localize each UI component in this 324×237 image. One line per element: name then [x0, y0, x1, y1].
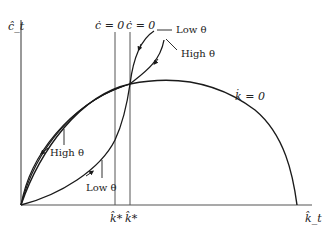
y-axis-label: ĉ_t [8, 20, 25, 33]
x-axis-label: k̂_t [305, 211, 322, 225]
k-star-right-label: k̂* [125, 211, 138, 225]
saddle-path-high-theta-upper [130, 40, 164, 84]
high-theta-bottom-label: High θ [50, 147, 84, 158]
phase-diagram: ĉ_t k̂_t ċ = 0 ċ = 0 k̇ = 0 k̂* k̂* Low … [0, 0, 324, 237]
low-theta-bottom-label: Low θ [86, 182, 116, 193]
k-star-left-label: k̂* [110, 211, 123, 225]
high-theta-top-label: High θ [181, 48, 215, 59]
c-dot-zero-right-label: ċ = 0 [126, 19, 155, 32]
saddle-path-low-theta-upper [130, 31, 154, 84]
low-theta-top-label: Low θ [176, 24, 206, 35]
high-theta-top-pointer [166, 39, 177, 50]
k-dot-zero-label: k̇ = 0 [235, 88, 265, 103]
c-dot-zero-left-label: ċ = 0 [95, 19, 124, 32]
